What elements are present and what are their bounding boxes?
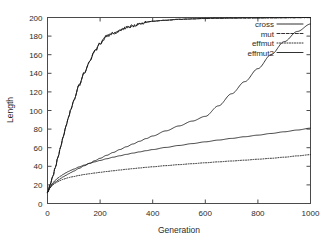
x-tick-label: 600 bbox=[199, 209, 213, 218]
line-chart-canvas: 020406080100120140160180200 020040060080… bbox=[0, 0, 327, 241]
y-axis-title: Length bbox=[5, 97, 15, 123]
legend-label-mut: mut bbox=[261, 30, 275, 39]
x-axis-title: Generation bbox=[158, 225, 200, 235]
x-tick-label: 1000 bbox=[302, 209, 320, 218]
legend-label-cross: cross bbox=[255, 20, 274, 29]
y-tick-label: 120 bbox=[29, 88, 43, 97]
x-tick-label: 0 bbox=[45, 209, 50, 218]
x-tick-label: 400 bbox=[146, 209, 160, 218]
chart-figure: 020406080100120140160180200 020040060080… bbox=[0, 0, 327, 241]
legend-label-effmut2: effmut2 bbox=[247, 49, 274, 58]
y-tick-label: 0 bbox=[38, 200, 43, 209]
x-axis-ticks: 02004006008001000 bbox=[45, 18, 320, 218]
y-tick-label: 100 bbox=[29, 107, 43, 116]
y-tick-label: 60 bbox=[34, 144, 43, 153]
y-tick-label: 200 bbox=[29, 14, 43, 23]
y-tick-label: 80 bbox=[34, 125, 43, 134]
y-tick-label: 40 bbox=[34, 162, 43, 171]
legend-label-effmut: effmut bbox=[252, 39, 275, 48]
series-line-effmut bbox=[48, 155, 311, 193]
y-tick-label: 20 bbox=[34, 181, 43, 190]
series-line-effmut2 bbox=[48, 128, 311, 192]
x-tick-label: 800 bbox=[251, 209, 265, 218]
y-tick-label: 160 bbox=[29, 51, 43, 60]
y-tick-label: 140 bbox=[29, 69, 43, 78]
y-tick-label: 180 bbox=[29, 32, 43, 41]
x-tick-label: 200 bbox=[93, 209, 107, 218]
